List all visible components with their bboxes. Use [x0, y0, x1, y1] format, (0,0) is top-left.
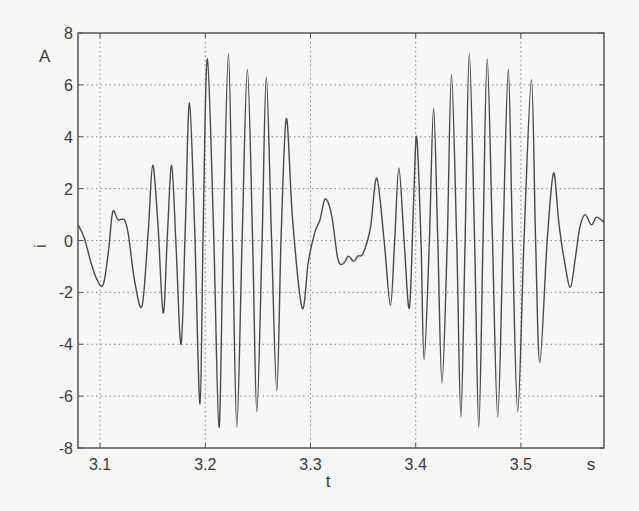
y-tick-label: 4: [64, 129, 73, 146]
y-tick-label: -8: [59, 440, 73, 457]
x-unit-label: s: [587, 455, 596, 474]
y-unit-label: A: [39, 47, 51, 66]
x-tick-label: 3.4: [405, 456, 427, 473]
y-tick-label: -4: [59, 336, 73, 353]
grid-lines: [78, 33, 604, 448]
current-waveform-chart: -8-6-4-202468 3.13.23.33.43.5 A i t s: [0, 0, 639, 511]
axes-frame: [78, 33, 604, 448]
y-tick-label: 2: [64, 181, 73, 198]
y-axis-label: i: [31, 244, 50, 248]
plot-area: [78, 54, 604, 428]
waveform-line: [78, 54, 604, 428]
x-tick-label: 3.1: [89, 456, 111, 473]
x-tick-label: 3.2: [194, 456, 216, 473]
x-tick-label: 3.5: [510, 456, 532, 473]
x-tick-label: 3.3: [299, 456, 321, 473]
y-tick-label: 0: [64, 233, 73, 250]
y-tick-label: -2: [59, 284, 73, 301]
y-tick-label: 8: [64, 25, 73, 42]
y-tick-label: -6: [59, 388, 73, 405]
x-axis-label: t: [326, 472, 331, 491]
y-tick-label: 6: [64, 77, 73, 94]
